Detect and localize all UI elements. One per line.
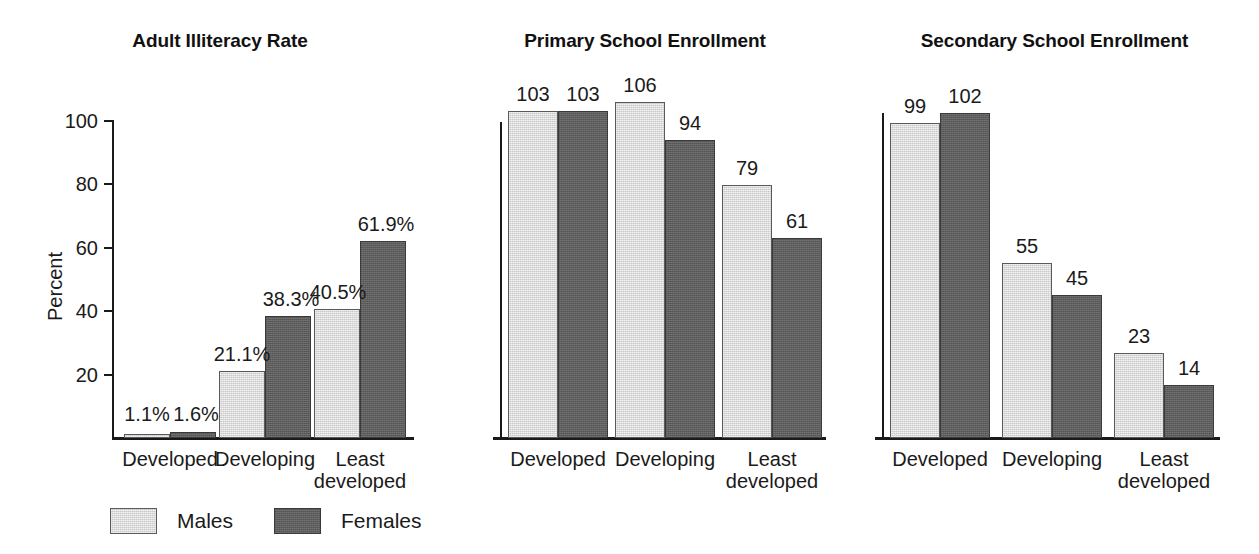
x-category-label-developing: Developing	[215, 448, 315, 470]
bar-males-developing[interactable]	[615, 102, 665, 438]
plot-area: 103 103 106 94 79 61 Developed Developin…	[440, 0, 850, 554]
x-category-label-developing: Developing	[615, 448, 715, 470]
bar-males-least-developed[interactable]	[722, 185, 772, 438]
bar-value-males-developing: 55	[1016, 235, 1038, 258]
x-category-label-developed: Developed	[510, 448, 606, 470]
bar-males-developed[interactable]	[508, 111, 558, 438]
bar-value-males-least-developed: 23	[1128, 325, 1150, 348]
bar-males-developing[interactable]	[219, 371, 265, 438]
plot-area: Percent 100 80 60 40 20 1.1% 1.6% 21.1%	[0, 0, 440, 554]
y-tick-label-40: 40	[46, 300, 98, 323]
y-axis-line	[882, 113, 884, 438]
bar-value-females-least-developed: 61.9%	[358, 213, 415, 236]
x-category-label-developed: Developed	[122, 448, 218, 470]
y-tick-label-80: 80	[46, 173, 98, 196]
y-tick-label-100: 100	[46, 110, 98, 133]
legend-label-females: Females	[341, 509, 422, 533]
bar-females-least-developed[interactable]	[360, 241, 406, 438]
y-tick-20	[104, 374, 113, 376]
bar-males-least-developed[interactable]	[314, 309, 360, 438]
bar-females-developed[interactable]	[170, 432, 216, 438]
y-tick-label-60: 60	[46, 237, 98, 260]
y-tick-40	[104, 310, 113, 312]
bar-value-males-developed: 103	[516, 83, 549, 106]
bar-value-males-developing: 106	[623, 74, 656, 97]
bar-value-males-developing: 21.1%	[214, 343, 271, 366]
x-category-label-developed: Developed	[892, 448, 988, 470]
plot-area: 99 102 55 45 23 14 Developed Developing …	[850, 0, 1259, 554]
x-category-label-least-developed: Least developed	[1118, 448, 1210, 493]
figure-canvas: Adult Illiteracy Rate Percent 100 80 60 …	[0, 0, 1259, 554]
bar-value-females-least-developed: 14	[1178, 357, 1200, 380]
bar-females-least-developed[interactable]	[1164, 385, 1214, 438]
y-tick-80	[104, 183, 113, 185]
bar-value-females-least-developed: 61	[786, 210, 808, 233]
x-category-label-least-developed: Least developed	[314, 448, 406, 493]
bar-males-least-developed[interactable]	[1114, 353, 1164, 438]
bar-males-developed[interactable]	[124, 434, 170, 438]
bar-value-females-developing: 45	[1066, 267, 1088, 290]
legend-item-females[interactable]: Females	[274, 508, 422, 534]
bar-females-developed[interactable]	[940, 113, 990, 438]
legend-label-males: Males	[177, 509, 233, 533]
y-axis-line	[112, 120, 114, 440]
bar-females-developing[interactable]	[265, 316, 311, 438]
bar-males-developed[interactable]	[890, 123, 940, 438]
legend-item-males[interactable]: Males	[110, 508, 233, 534]
x-category-label-developing: Developing	[1002, 448, 1102, 470]
bar-value-males-developed: 1.1%	[124, 403, 170, 426]
chart-panel-adult-illiteracy-rate: Adult Illiteracy Rate Percent 100 80 60 …	[0, 0, 440, 554]
bar-females-developing[interactable]	[665, 140, 715, 438]
bar-value-females-developed: 102	[948, 85, 981, 108]
legend-swatch-females-icon	[274, 508, 321, 534]
bar-value-females-developed: 1.6%	[173, 403, 219, 426]
legend-swatch-males-icon	[110, 508, 157, 534]
x-category-label-least-developed: Least developed	[726, 448, 818, 493]
bar-females-least-developed[interactable]	[772, 238, 822, 438]
bar-value-males-least-developed: 40.5%	[310, 281, 367, 304]
bar-females-developing[interactable]	[1052, 295, 1102, 438]
y-axis-line	[500, 122, 502, 438]
chart-panel-secondary-school-enrollment: Secondary School Enrollment 99 102 55 45…	[850, 0, 1259, 554]
y-tick-label-20: 20	[46, 364, 98, 387]
bar-males-developing[interactable]	[1002, 263, 1052, 438]
bar-value-males-least-developed: 79	[736, 157, 758, 180]
chart-panel-primary-school-enrollment: Primary School Enrollment 103 103 106 94…	[440, 0, 850, 554]
bar-value-females-developing: 94	[679, 112, 701, 135]
y-tick-100	[104, 120, 113, 122]
bar-value-females-developed: 103	[566, 83, 599, 106]
y-tick-60	[104, 247, 113, 249]
bar-females-developed[interactable]	[558, 111, 608, 438]
bar-value-males-developed: 99	[904, 95, 926, 118]
